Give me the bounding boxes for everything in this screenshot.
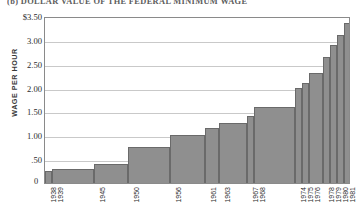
bar (344, 23, 350, 183)
bar (170, 135, 205, 183)
bar-series (45, 18, 349, 183)
bar (128, 147, 170, 183)
x-tick-label: 1976 (314, 187, 321, 221)
bar (295, 88, 302, 183)
bar (309, 73, 323, 183)
x-tick-label: 1961 (210, 187, 217, 221)
plot-area (44, 17, 350, 184)
bar (45, 171, 52, 183)
origin-zero-label: 0 (34, 177, 38, 186)
y-tick-label: 1.50 (2, 107, 42, 117)
x-tick-label: 1938 (50, 187, 57, 221)
bar (254, 107, 296, 183)
x-tick-label: 1956 (175, 187, 182, 221)
bar (302, 83, 309, 183)
x-tick-label: 1981 (349, 187, 356, 221)
x-tick-label: 1963 (224, 187, 231, 221)
y-axis-tick-labels: $3.503.002.502.001.501.00.50 (0, 0, 42, 222)
bar (247, 116, 254, 183)
bar (323, 57, 330, 183)
bar (337, 35, 344, 183)
x-tick-label: 1967 (252, 187, 259, 221)
x-tick-label: 1945 (99, 187, 106, 221)
y-tick-label: $3.50 (2, 12, 42, 22)
y-tick-label: 1.00 (2, 131, 42, 141)
bar (330, 45, 337, 183)
bar (219, 123, 247, 183)
y-tick-label: 2.00 (2, 84, 42, 94)
chart-title: (b) DOLLAR VALUE OF THE FEDERAL MINIMUM … (7, 0, 347, 7)
y-tick-label: 2.50 (2, 60, 42, 70)
y-tick-label: .50 (2, 155, 42, 165)
bar (205, 128, 219, 183)
x-axis-tick-labels: 1938193919451950195619611963196719681974… (44, 185, 350, 222)
x-tick-label: 1968 (259, 187, 266, 221)
bar (94, 164, 129, 183)
y-tick-label: 3.00 (2, 36, 42, 46)
bar (52, 169, 94, 183)
x-tick-label: 1939 (57, 187, 64, 221)
x-tick-label: 1950 (133, 187, 140, 221)
